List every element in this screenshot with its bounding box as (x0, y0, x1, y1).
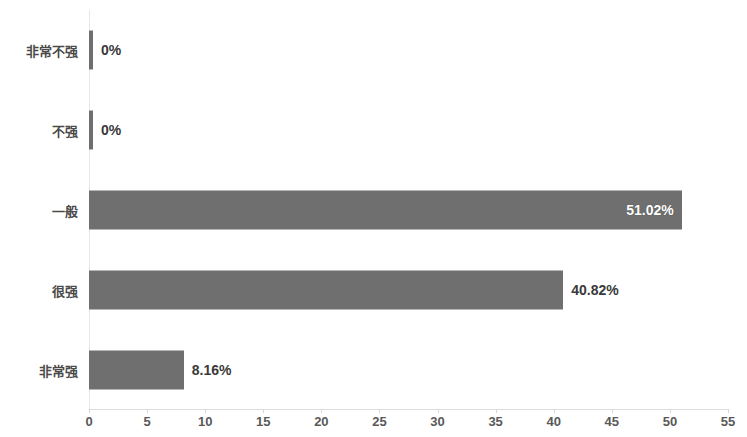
bar-value-label: 0% (101, 42, 121, 58)
bar-value-label: 0% (101, 122, 121, 138)
x-tick-label: 55 (721, 414, 735, 429)
bar (89, 191, 682, 230)
category-label: 一般 (52, 201, 78, 220)
x-tick-mark (670, 409, 671, 413)
x-tick-label: 0 (85, 414, 92, 429)
x-tick-label: 20 (314, 414, 328, 429)
x-tick-label: 15 (256, 414, 270, 429)
x-tick-label: 30 (430, 414, 444, 429)
category-label: 很强 (52, 281, 78, 300)
x-tick-label: 35 (488, 414, 502, 429)
x-tick-mark (438, 409, 439, 413)
x-tick-mark (89, 409, 90, 413)
category-label: 不强 (52, 121, 78, 140)
bar (89, 271, 563, 310)
bar (89, 31, 93, 70)
x-tick-label: 45 (605, 414, 619, 429)
x-tick-mark (379, 409, 380, 413)
x-tick-mark (205, 409, 206, 413)
x-tick-mark (496, 409, 497, 413)
bar-chart: 0510152025303540455055 非常不强0%不强0%一般51.02… (0, 0, 747, 437)
bar-value-label: 51.02% (626, 202, 673, 218)
bar-value-label: 8.16% (192, 362, 232, 378)
bar-value-label: 40.82% (571, 282, 618, 298)
x-tick-mark (612, 409, 613, 413)
x-tick-mark (147, 409, 148, 413)
x-tick-mark (263, 409, 264, 413)
x-tick-label: 25 (372, 414, 386, 429)
category-label: 非常强 (39, 361, 78, 380)
bar (89, 111, 93, 150)
x-tick-mark (554, 409, 555, 413)
x-tick-label: 40 (546, 414, 560, 429)
x-tick-label: 50 (663, 414, 677, 429)
x-tick-label: 10 (198, 414, 212, 429)
bar (89, 351, 184, 390)
category-label: 非常不强 (26, 41, 78, 60)
x-tick-mark (321, 409, 322, 413)
x-tick-label: 5 (143, 414, 150, 429)
x-tick-mark (728, 409, 729, 413)
